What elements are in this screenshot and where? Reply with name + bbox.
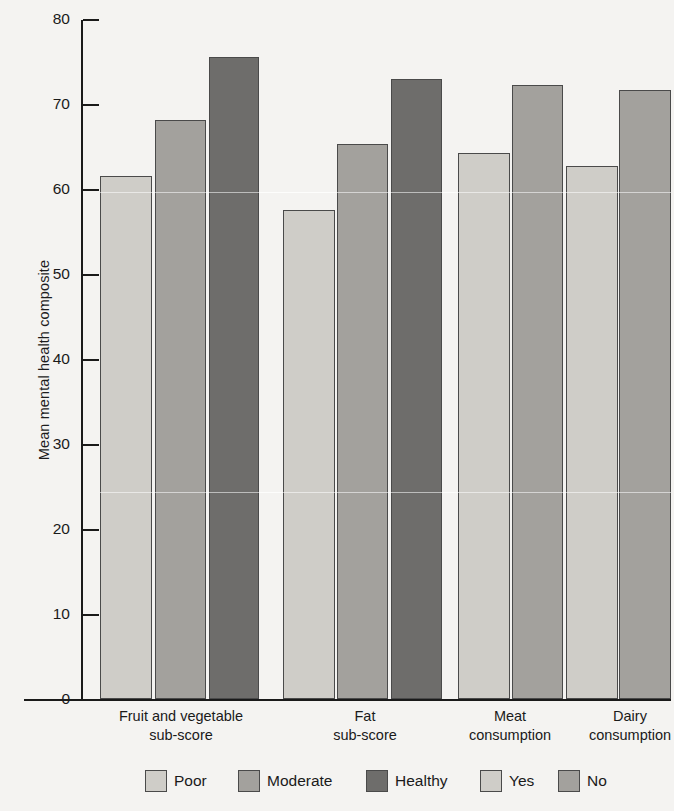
group-label-line: Fruit and vegetable: [83, 707, 279, 726]
group-label-line: sub-score: [83, 726, 279, 745]
legend-swatch: [366, 770, 388, 792]
legend-label: Moderate: [267, 772, 332, 790]
legend-swatch: [558, 770, 580, 792]
bar: [100, 176, 152, 699]
bar: [619, 90, 671, 699]
legend-label: No: [587, 772, 607, 790]
group-label: Dairyconsumption: [560, 707, 674, 745]
group-label: Fruit and vegetablesub-score: [83, 707, 279, 745]
group-label-line: Meat: [440, 707, 580, 726]
bar: [512, 85, 563, 699]
bar: [391, 79, 442, 699]
group-label-line: consumption: [560, 726, 674, 745]
plot-area: [0, 0, 674, 811]
legend-swatch: [238, 770, 260, 792]
group-label: Fatsub-score: [285, 707, 445, 745]
bar: [209, 57, 259, 699]
bar: [566, 166, 618, 699]
legend-label: Yes: [509, 772, 534, 790]
group-label-line: sub-score: [285, 726, 445, 745]
legend-label: Poor: [174, 772, 207, 790]
legend-swatch: [480, 770, 502, 792]
legend-item-no[interactable]: No: [558, 770, 607, 792]
legend-swatch: [145, 770, 167, 792]
group-label-line: Dairy: [560, 707, 674, 726]
legend-item-yes[interactable]: Yes: [480, 770, 534, 792]
scan-artifact-line: [100, 492, 671, 493]
bar: [458, 153, 510, 699]
legend-label: Healthy: [395, 772, 448, 790]
group-label-line: consumption: [440, 726, 580, 745]
bar: [283, 210, 335, 699]
legend-item-poor[interactable]: Poor: [145, 770, 207, 792]
bar: [337, 144, 388, 699]
scan-artifact-line: [100, 192, 671, 193]
bar-chart: Mean mental health composite 01020304050…: [0, 0, 674, 811]
bar: [155, 120, 206, 699]
legend-item-healthy[interactable]: Healthy: [366, 770, 448, 792]
group-label-line: Fat: [285, 707, 445, 726]
legend-item-moderate[interactable]: Moderate: [238, 770, 332, 792]
group-label: Meatconsumption: [440, 707, 580, 745]
